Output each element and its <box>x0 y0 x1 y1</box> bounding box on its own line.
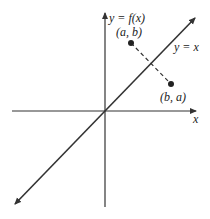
identity-line-lower <box>15 111 105 204</box>
point-a-b <box>128 40 134 46</box>
identity-line-label: y = x <box>173 40 199 54</box>
y-axis-label: y = f(x) <box>108 11 145 25</box>
point-b-a-label: (b, a) <box>160 90 186 104</box>
reflection-diagram: y = f(x) (a, b) y = x (b, a) x <box>0 0 210 219</box>
point-a-b-label: (a, b) <box>116 25 142 39</box>
x-axis-label: x <box>192 112 199 126</box>
point-b-a <box>168 81 174 87</box>
